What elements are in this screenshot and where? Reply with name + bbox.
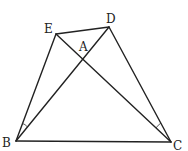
segment-EB — [16, 34, 56, 141]
angle-mark-B — [23, 124, 28, 128]
segment-DC — [109, 27, 171, 142]
point-label-C: C — [173, 139, 182, 151]
point-label-D: D — [106, 12, 116, 26]
point-label-B: B — [2, 136, 11, 150]
segment-EC — [56, 34, 171, 142]
point-label-A: A — [78, 40, 88, 54]
geometry-diagram: E D A B C — [0, 0, 188, 151]
segment-ED — [56, 27, 109, 34]
point-label-E: E — [44, 22, 53, 36]
segment-DB — [16, 27, 109, 141]
segment-BC — [16, 141, 171, 142]
angle-mark-C — [156, 123, 161, 128]
